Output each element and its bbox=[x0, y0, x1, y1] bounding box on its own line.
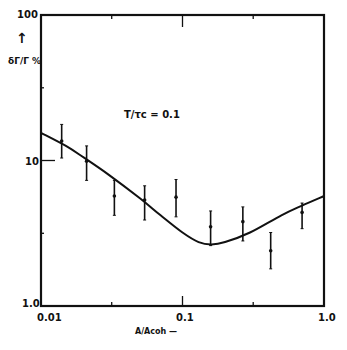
theory-curve bbox=[41, 133, 324, 245]
data-point bbox=[209, 211, 213, 246]
data-point bbox=[60, 124, 64, 158]
plot-frame bbox=[41, 15, 324, 306]
axis-ticks bbox=[41, 15, 253, 306]
data-point bbox=[85, 146, 89, 180]
data-point bbox=[113, 180, 117, 215]
data-point bbox=[269, 233, 273, 269]
data-point bbox=[174, 180, 178, 217]
chart-plot bbox=[0, 0, 347, 350]
data-points bbox=[60, 124, 304, 268]
